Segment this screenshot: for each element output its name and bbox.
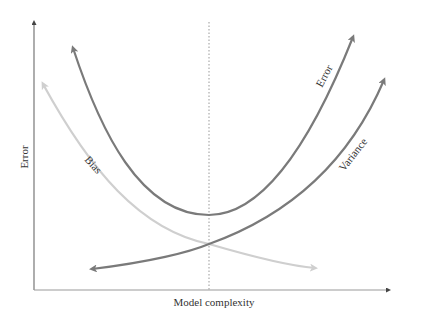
diagram-canvas: Error Variance Bias Error Model complexi… (0, 0, 422, 319)
variance-curve-label: Variance (336, 135, 369, 173)
x-axis-label: Model complexity (174, 296, 255, 308)
bias-variance-diagram: Error Variance Bias Error Model complexi… (0, 0, 422, 319)
y-axis-label: Error (18, 145, 30, 169)
bias-curve (43, 84, 315, 268)
